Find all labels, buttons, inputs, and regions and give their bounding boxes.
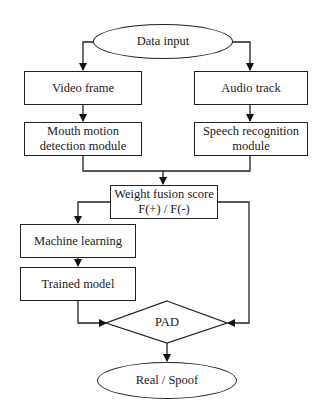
mouth-motion-node: Mouth motion detection module [24,122,142,156]
data-input-label: Data input [137,34,189,49]
trained-model-node: Trained model [20,267,136,301]
mouth-motion-label-line1: Mouth motion [47,124,119,139]
trained-model-label: Trained model [42,277,115,292]
speech-recognition-label-line2: module [232,139,270,154]
video-frame-label: Video frame [52,81,114,96]
weight-fusion-label-line1: Weight fusion score [114,187,214,202]
video-frame-node: Video frame [24,71,142,105]
data-input-node: Data input [93,24,233,59]
speech-recognition-node: Speech recognition module [194,122,308,156]
weight-fusion-node: Weight fusion score F(+) / F(-) [110,185,218,219]
machine-learning-label: Machine learning [34,234,122,249]
speech-recognition-label-line1: Speech recognition [203,124,299,139]
real-spoof-node: Real / Spoof [97,362,237,399]
machine-learning-node: Machine learning [20,224,136,258]
pad-label: PAD [137,315,197,330]
weight-fusion-label-line2: F(+) / F(-) [138,202,190,217]
real-spoof-label: Real / Spoof [136,373,199,388]
mouth-motion-label-line2: detection module [40,139,126,154]
audio-track-label: Audio track [221,81,280,96]
audio-track-node: Audio track [194,71,308,105]
